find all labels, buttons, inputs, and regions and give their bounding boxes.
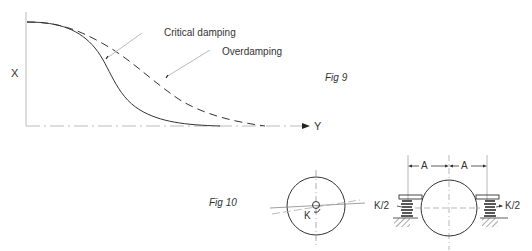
fig10-disc-double [393,155,508,250]
y-axis-label: X [11,68,18,79]
diagram-canvas [0,0,532,251]
spring-k2-right-label: K/2 [505,201,520,211]
overdamping-label: Overdamping [222,47,282,57]
fig10-disc-single [270,170,365,246]
fig9-caption: Fig 9 [325,73,347,83]
critical-damping-leader-tick [106,56,108,59]
x-axis-label: Y [314,121,321,132]
right-ground-icon [482,218,498,227]
right-spring-icon [484,201,496,216]
spring-k2-left-label: K/2 [374,201,389,211]
dimension-a-left-label: A [421,161,428,171]
spring-k-label: K [304,211,311,221]
critical-damping-label: Critical damping [164,28,236,38]
left-spring-icon [401,201,413,216]
left-ground-icon [394,218,410,227]
critical-damping-leader [107,33,142,58]
overdamping-leader [166,50,210,77]
x-axis-arrow-icon [302,123,310,129]
dimension-a-right-label: A [461,161,468,171]
fig10-caption: Fig 10 [209,198,237,208]
overdamping-leader-tick [166,75,168,78]
torsion-spring-icon [314,209,320,212]
